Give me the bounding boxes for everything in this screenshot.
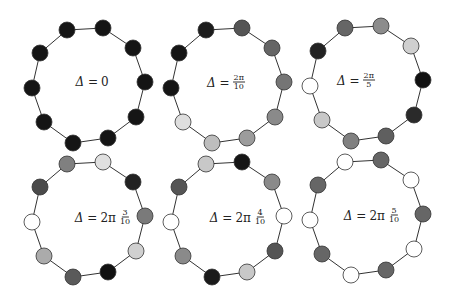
delta-symbol: Δ = bbox=[210, 210, 233, 224]
delta-symbol: Δ = bbox=[75, 75, 98, 89]
ring-node bbox=[204, 269, 220, 285]
coef: 2π bbox=[235, 210, 251, 224]
ring-node bbox=[337, 20, 353, 36]
ring-node bbox=[95, 20, 111, 36]
denominator: 10 bbox=[119, 218, 131, 226]
ring-node bbox=[24, 214, 40, 230]
ring-node bbox=[100, 130, 116, 146]
ring-node bbox=[95, 154, 111, 170]
ring-node bbox=[24, 80, 40, 96]
ring-node bbox=[302, 78, 318, 94]
ring-node bbox=[128, 243, 144, 259]
ring-node bbox=[65, 135, 81, 151]
ring-node bbox=[198, 156, 214, 172]
ring-node bbox=[198, 22, 214, 38]
denominator: 10 bbox=[254, 218, 266, 226]
fraction: 410 bbox=[254, 209, 266, 226]
ring-node bbox=[171, 179, 187, 195]
ring-node bbox=[125, 40, 141, 56]
delta-symbol: Δ = bbox=[207, 75, 230, 89]
ring-node bbox=[267, 109, 283, 125]
ring-node bbox=[415, 206, 431, 222]
ring-node bbox=[267, 243, 283, 259]
ring-node bbox=[276, 208, 292, 224]
ring-node bbox=[406, 107, 422, 123]
label-delta-2pi-5-10: Δ = 2π 510 bbox=[344, 207, 400, 224]
coef: 2π bbox=[100, 210, 116, 224]
ring-node bbox=[343, 267, 359, 283]
ring-node bbox=[406, 241, 422, 257]
ring-node bbox=[59, 22, 75, 38]
ring-node bbox=[314, 112, 330, 128]
ring-node bbox=[163, 80, 179, 96]
delta-symbol: Δ = bbox=[344, 208, 367, 222]
label-delta-0: Δ = 0 bbox=[75, 75, 108, 89]
ring-node bbox=[36, 114, 52, 130]
denominator: 5 bbox=[365, 81, 372, 89]
ring-node bbox=[125, 174, 141, 190]
coef: 2π bbox=[369, 208, 385, 222]
ring-node bbox=[32, 179, 48, 195]
ring-node bbox=[264, 40, 280, 56]
fraction: 310 bbox=[119, 209, 131, 226]
ring-node bbox=[234, 154, 250, 170]
ring-node bbox=[343, 133, 359, 149]
ring-node bbox=[239, 264, 255, 280]
ring-node bbox=[59, 156, 75, 172]
ring-node bbox=[302, 212, 318, 228]
label-delta-2pi-5: Δ = 2π5 bbox=[337, 72, 375, 89]
ring-node bbox=[32, 45, 48, 61]
ring-node bbox=[128, 109, 144, 125]
ring-node bbox=[36, 248, 52, 264]
fraction: 2π5 bbox=[363, 72, 375, 89]
ring-node bbox=[337, 154, 353, 170]
ring-node bbox=[415, 72, 431, 88]
ring-node bbox=[378, 262, 394, 278]
ring-node bbox=[137, 208, 153, 224]
ring-node bbox=[310, 43, 326, 59]
delta-symbol: Δ = bbox=[75, 210, 98, 224]
ring-node bbox=[373, 18, 389, 34]
fraction: 510 bbox=[388, 207, 400, 224]
ring-node bbox=[276, 74, 292, 90]
ring-node bbox=[65, 269, 81, 285]
ring-node bbox=[234, 20, 250, 36]
ring-node bbox=[163, 214, 179, 230]
ring-node bbox=[373, 152, 389, 168]
delta-symbol: Δ = bbox=[337, 73, 360, 87]
ring-node bbox=[204, 135, 220, 151]
ring-node bbox=[175, 114, 191, 130]
ring-node bbox=[175, 248, 191, 264]
coef: 0 bbox=[101, 75, 109, 89]
ring-node bbox=[403, 38, 419, 54]
ring-node bbox=[137, 74, 153, 90]
ring-node bbox=[264, 174, 280, 190]
ring-node bbox=[378, 128, 394, 144]
ring-node bbox=[239, 130, 255, 146]
label-delta-2pi-3-10: Δ = 2π 310 bbox=[75, 209, 131, 226]
ring-node bbox=[171, 45, 187, 61]
label-delta-2pi-4-10: Δ = 2π 410 bbox=[210, 209, 266, 226]
ring-node bbox=[314, 246, 330, 262]
ring-node bbox=[100, 264, 116, 280]
diagram-canvas bbox=[0, 0, 454, 303]
fraction: 2π10 bbox=[233, 74, 245, 91]
denominator: 10 bbox=[233, 83, 245, 91]
label-delta-2pi-10: Δ = 2π10 bbox=[207, 74, 245, 91]
ring-node bbox=[403, 172, 419, 188]
denominator: 10 bbox=[388, 216, 400, 224]
ring-node bbox=[310, 177, 326, 193]
